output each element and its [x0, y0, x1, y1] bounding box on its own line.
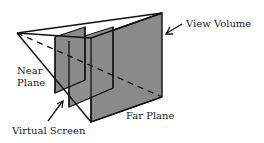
near-plane-label-line2: Plane	[17, 77, 45, 88]
view-volume-label: View Volume	[186, 18, 251, 29]
virtual-screen-arrow	[48, 102, 62, 121]
far-plane-label: Far Plane	[126, 110, 174, 121]
near-plane-label-line1: Near	[17, 65, 42, 76]
virtual-screen-label: Virtual Screen	[12, 125, 85, 136]
view-volume-diagram: View Volume Near Plane Virtual Screen Fa…	[0, 0, 264, 143]
